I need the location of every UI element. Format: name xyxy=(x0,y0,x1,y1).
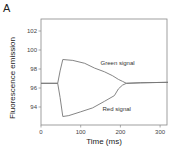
y-axis-title: Fluorescence emission xyxy=(8,37,17,119)
green-signal-label: Green signal xyxy=(101,60,135,66)
x-tick-label: 200 xyxy=(115,129,126,135)
y-tick-label: 102 xyxy=(27,28,38,34)
line-chart: 949698100102 0100200300 Green signalRed … xyxy=(0,0,178,150)
red-signal-label: Red signal xyxy=(103,106,131,112)
x-tick-label: 100 xyxy=(76,129,87,135)
x-tick-label: 300 xyxy=(155,129,166,135)
y-tick-label: 94 xyxy=(30,104,37,110)
annotations: Green signalRed signal xyxy=(101,60,135,112)
x-axis-title: Time (ms) xyxy=(86,137,122,146)
y-axis-ticks: 949698100102 xyxy=(27,28,41,110)
x-axis-ticks: 0100200300 xyxy=(39,125,165,135)
y-tick-label: 100 xyxy=(27,47,38,53)
x-tick-label: 0 xyxy=(39,129,43,135)
y-tick-label: 96 xyxy=(30,85,37,91)
y-tick-label: 98 xyxy=(30,66,37,72)
